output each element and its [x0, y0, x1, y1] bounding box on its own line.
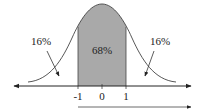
normal-distribution-diagram: 68% 16% 16% -1 0 1: [0, 0, 204, 112]
tick-label-minus-1: -1: [73, 90, 82, 102]
right-tail-label: 16%: [150, 35, 170, 47]
center-percent-label: 68%: [92, 44, 112, 56]
left-tail-label: 16%: [31, 35, 51, 47]
tick-label-0: 0: [99, 90, 105, 102]
tick-label-1: 1: [123, 90, 129, 102]
